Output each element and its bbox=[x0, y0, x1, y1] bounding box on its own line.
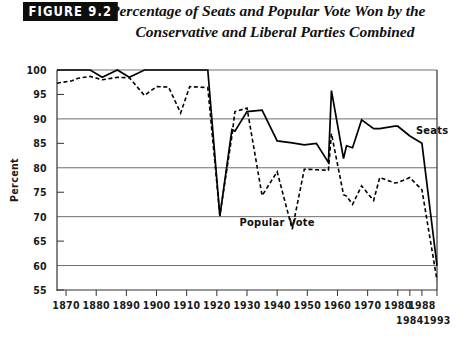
axis-lines bbox=[57, 70, 437, 291]
annotation-seats: Seats bbox=[416, 124, 449, 137]
x-tick-label-1960: 1960 bbox=[324, 299, 352, 311]
x-tick-label-1988: 1988 bbox=[408, 299, 436, 311]
figure-header: FIGURE 9.2 Percentage of Seats and Popul… bbox=[0, 0, 462, 58]
series-line-popular-vote bbox=[57, 76, 437, 280]
x-tick-label-1970: 1970 bbox=[354, 299, 382, 311]
figure-title-line-1: Percentage of Seats and Popular Vote Won… bbox=[110, 2, 425, 19]
x-axis-ticks bbox=[66, 290, 437, 296]
x-axis-tick-labels: 1870188018901900191019201930194019501960… bbox=[52, 299, 450, 326]
y-tick-label-100: 100 bbox=[26, 64, 47, 76]
y-tick-label-60: 60 bbox=[33, 260, 47, 272]
x-tick-label-1900: 1900 bbox=[143, 299, 171, 311]
y-tick-label-80: 80 bbox=[33, 162, 47, 174]
chart-container: 556065707580859095100 187018801890190019… bbox=[0, 56, 462, 348]
annotation-popular-vote: Popular Vote bbox=[239, 216, 314, 229]
y-tick-label-85: 85 bbox=[33, 137, 47, 149]
x-tick-label-1920: 1920 bbox=[203, 299, 231, 311]
y-axis-title: Percent bbox=[8, 158, 20, 202]
y-tick-label-90: 90 bbox=[33, 113, 47, 125]
y-tick-label-95: 95 bbox=[33, 88, 47, 100]
x-tick-label-1940: 1940 bbox=[263, 299, 291, 311]
gridlines bbox=[57, 70, 437, 266]
x-tick-label-1993: 1993 bbox=[423, 314, 451, 326]
x-tick-label-1870: 1870 bbox=[52, 299, 80, 311]
y-axis-ticks bbox=[57, 94, 64, 290]
figure-title: Percentage of Seats and Popular Vote Won… bbox=[110, 0, 440, 42]
y-axis-tick-labels: 556065707580859095100 bbox=[26, 64, 47, 296]
figure-title-line-2: Conservative and Liberal Parties Combine… bbox=[110, 21, 440, 42]
y-tick-label-65: 65 bbox=[33, 235, 47, 247]
x-tick-label-1910: 1910 bbox=[173, 299, 201, 311]
series-annotations: SeatsPopular Vote bbox=[239, 124, 448, 230]
line-chart: 556065707580859095100 187018801890190019… bbox=[0, 56, 462, 348]
x-tick-label-1950: 1950 bbox=[294, 299, 322, 311]
figure-number-badge: FIGURE 9.2 bbox=[23, 2, 118, 21]
y-tick-label-70: 70 bbox=[33, 211, 47, 223]
x-tick-label-1880: 1880 bbox=[82, 299, 110, 311]
y-tick-label-75: 75 bbox=[33, 186, 47, 198]
y-tick-label-55: 55 bbox=[33, 284, 47, 296]
x-tick-label-1930: 1930 bbox=[233, 299, 261, 311]
data-series bbox=[57, 70, 437, 280]
x-tick-label-1984: 1984 bbox=[396, 314, 424, 326]
x-tick-label-1890: 1890 bbox=[113, 299, 141, 311]
